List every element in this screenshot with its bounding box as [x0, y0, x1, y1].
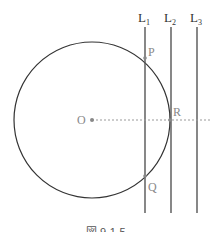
label-q: Q [148, 180, 157, 194]
point-r [168, 118, 172, 122]
label-o: O [77, 113, 86, 127]
label-l2: L2 [164, 10, 176, 27]
point-p [143, 56, 147, 60]
label-l1: L1 [138, 10, 150, 27]
point-q [143, 174, 147, 178]
label-p: P [148, 45, 155, 59]
label-l3: L3 [190, 10, 202, 27]
figure-caption: 図 9-1-5 [86, 226, 126, 232]
center-point [90, 118, 94, 122]
label-r: R [173, 105, 181, 119]
geometry-diagram: O P Q R L1 L2 L3 図 9-1-5 [0, 0, 213, 232]
